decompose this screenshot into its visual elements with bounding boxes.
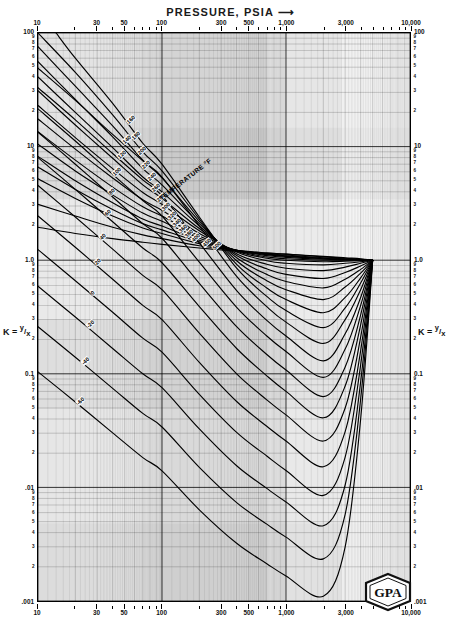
k-numerator-right: y: [435, 323, 439, 332]
x-tickmark: [345, 26, 346, 31]
y-minor-left: 4: [32, 531, 35, 536]
y-minor-right: 5: [414, 178, 417, 183]
x-tickmark-minor: [149, 606, 150, 609]
y-minor-left: 5: [32, 292, 35, 297]
x-tickmark-minor: [258, 27, 259, 30]
y-minor-right: 2: [414, 451, 417, 456]
y-minor-left: 7: [32, 161, 35, 166]
y-minor-right: 5: [414, 64, 417, 69]
x-tickmark-minor: [399, 27, 400, 30]
x-tickmark-minor: [258, 606, 259, 609]
y-minor-left: 8: [32, 497, 35, 502]
x-tickmark: [96, 26, 97, 31]
y-minor-right: 6: [414, 397, 417, 402]
x-tickmark-minor: [134, 27, 135, 30]
y-minor-right: 3: [414, 89, 417, 94]
y-minor-right: 5: [414, 406, 417, 411]
y-minor-right: 5: [414, 520, 417, 525]
y-tick-right-.001: .001: [414, 599, 426, 605]
k-numerator-left: y: [20, 323, 24, 332]
y-minor-left: 2: [32, 223, 35, 228]
y-minor-right: 3: [414, 203, 417, 208]
x-tickmark-minor: [373, 27, 374, 30]
x-tickmark: [124, 604, 125, 609]
y-minor-right: 4: [414, 189, 417, 194]
y-minor-left: 3: [32, 89, 35, 94]
x-tickmark-minor: [405, 27, 406, 30]
x-tick-bottom-30: 30: [93, 610, 100, 616]
x-tickmark-minor: [274, 27, 275, 30]
y-minor-left: 6: [32, 55, 35, 60]
x-tickmark-minor: [324, 606, 325, 609]
y-minor-left: 8: [32, 155, 35, 160]
y-tick-left-.001: .001: [22, 599, 34, 605]
x-tickmark-minor: [199, 606, 200, 609]
x-tickmark: [96, 604, 97, 609]
y-minor-right: 3: [414, 317, 417, 322]
y-minor-right: 6: [414, 283, 417, 288]
y-minor-left: 6: [32, 283, 35, 288]
y-minor-right: 9: [414, 263, 417, 268]
x-tickmark-minor: [74, 27, 75, 30]
x-tickmark-minor: [274, 606, 275, 609]
k-equals-right: K =: [418, 327, 432, 337]
x-tickmark: [124, 26, 125, 31]
y-minor-right: 3: [414, 431, 417, 436]
x-tickmark: [37, 604, 38, 609]
y-minor-left: 3: [32, 545, 35, 550]
k-equals-left: K =: [3, 327, 17, 337]
y-minor-left: 7: [32, 275, 35, 280]
y-minor-left: 6: [32, 169, 35, 174]
x-tickmark-minor: [383, 27, 384, 30]
y-minor-left: 2: [32, 337, 35, 342]
x-tickmark-minor: [280, 606, 281, 609]
y-minor-right: 3: [414, 545, 417, 550]
k-denominator-right: x: [441, 329, 445, 338]
k-denominator-left: x: [26, 329, 30, 338]
gpa-logo-text: GPA: [374, 585, 402, 600]
x-tickmark: [221, 26, 222, 31]
x-tick-bottom-500: 500: [243, 610, 254, 616]
y-minor-left: 2: [32, 451, 35, 456]
y-minor-right: 9: [414, 377, 417, 382]
x-tickmark-minor: [156, 27, 157, 30]
y-minor-left: 4: [32, 417, 35, 422]
y-minor-left: 4: [32, 303, 35, 308]
y-minor-right: 9: [414, 491, 417, 496]
y-minor-right: 5: [414, 292, 417, 297]
x-tickmark: [345, 604, 346, 609]
chart-title-text: PRESSURE, PSIA: [166, 6, 273, 18]
y-minor-left: 5: [32, 178, 35, 183]
x-tick-bottom-10: 10: [33, 610, 40, 616]
y-minor-left: 7: [32, 389, 35, 394]
chart-page: PRESSURE, PSIA ⟶ K = y/x K = y/x 1030501…: [0, 0, 460, 637]
x-tickmark-minor: [236, 606, 237, 609]
x-tickmark-minor: [112, 606, 113, 609]
y-minor-left: 8: [32, 383, 35, 388]
y-minor-right: 8: [414, 41, 417, 46]
y-minor-right: 8: [414, 383, 417, 388]
plot-area: [37, 32, 411, 602]
arrow-right-icon: ⟶: [278, 6, 294, 18]
x-tickmark-minor: [236, 27, 237, 30]
y-minor-right: 7: [414, 47, 417, 52]
x-tickmark-minor: [134, 606, 135, 609]
x-tick-bottom-50: 50: [121, 610, 128, 616]
x-tickmark-minor: [361, 27, 362, 30]
y-minor-right: 6: [414, 511, 417, 516]
y-minor-right: 9: [414, 35, 417, 40]
x-tickmark: [411, 26, 412, 31]
x-tick-bottom-3000: 3,000: [338, 610, 354, 616]
y-minor-right: 2: [414, 109, 417, 114]
y-minor-right: 2: [414, 565, 417, 570]
x-tickmark-minor: [142, 27, 143, 30]
y-minor-left: 4: [32, 75, 35, 80]
x-tickmark-minor: [142, 606, 143, 609]
y-minor-left: 6: [32, 511, 35, 516]
y-minor-right: 7: [414, 275, 417, 280]
temperature-curves: [38, 33, 410, 601]
y-minor-left: 2: [32, 565, 35, 570]
x-tickmark: [286, 604, 287, 609]
x-tickmark-minor: [267, 606, 268, 609]
y-minor-left: 8: [32, 269, 35, 274]
